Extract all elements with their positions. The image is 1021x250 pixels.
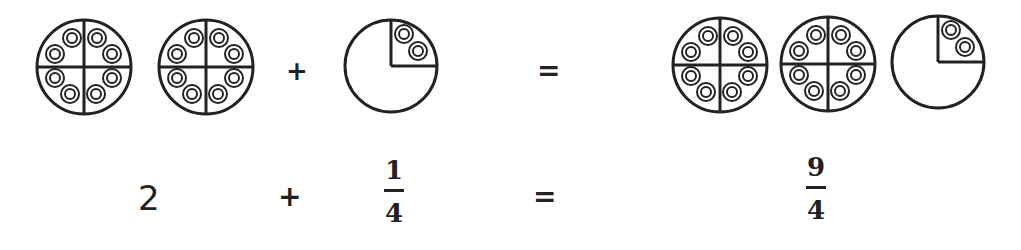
result-whole-circle-1 xyxy=(673,18,767,112)
result-fraction: 9 4 xyxy=(806,154,826,223)
whole-circle-2 xyxy=(159,20,253,114)
plus-sign-bottom: + xyxy=(278,180,301,213)
equals-sign-bottom: = xyxy=(533,180,556,213)
plus-sign-top: + xyxy=(286,56,308,86)
result-denominator: 4 xyxy=(807,197,825,223)
result-quarter-circle xyxy=(892,16,984,108)
whole-circle-1 xyxy=(37,20,131,114)
equals-sign-top: = xyxy=(537,54,560,87)
result-numerator: 9 xyxy=(807,154,825,180)
quarter-circle xyxy=(345,20,437,112)
result-whole-circle-2 xyxy=(781,17,875,111)
addend-denominator: 4 xyxy=(385,200,403,226)
whole-number: 2 xyxy=(138,178,160,218)
addend-fraction: 1 4 xyxy=(384,157,404,226)
addend-numerator: 1 xyxy=(385,157,403,183)
fraction-bar xyxy=(384,189,404,192)
fraction-bar xyxy=(806,186,826,189)
